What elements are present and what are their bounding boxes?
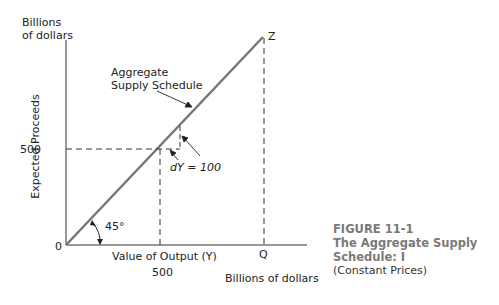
curve-label-line2: Supply Schedule	[111, 79, 203, 92]
figure-caption: FIGURE 11-1 The Aggregate Supply Schedul…	[333, 222, 477, 278]
q-label: Q	[259, 248, 268, 261]
y-tick-500: 500	[20, 143, 41, 156]
x-units-label: Billions of dollars	[225, 272, 319, 285]
dy-label: dY = 100	[170, 161, 221, 174]
angle-label: 45°	[105, 220, 125, 233]
figure-title-line1: The Aggregate Supply	[333, 236, 477, 250]
arrowhead	[90, 220, 96, 226]
origin-label: 0	[55, 240, 62, 253]
figure-subtitle: (Constant Prices)	[333, 264, 477, 278]
figure-title-line2: Schedule: I	[333, 250, 477, 264]
z-label: Z	[268, 30, 276, 43]
figure-number: FIGURE 11-1	[333, 222, 477, 236]
curve-label-line1: Aggregate	[111, 66, 168, 79]
arrowhead	[185, 102, 192, 107]
curve-label-arrow	[157, 91, 190, 106]
x-tick-500: 500	[152, 266, 173, 279]
x-axis-label: Value of Output (Y)	[112, 250, 217, 263]
arrowhead	[170, 150, 176, 156]
dy-arrow-1	[184, 138, 200, 156]
arrowhead	[97, 239, 103, 245]
y-units-label: Billionsof dollars	[22, 16, 73, 42]
